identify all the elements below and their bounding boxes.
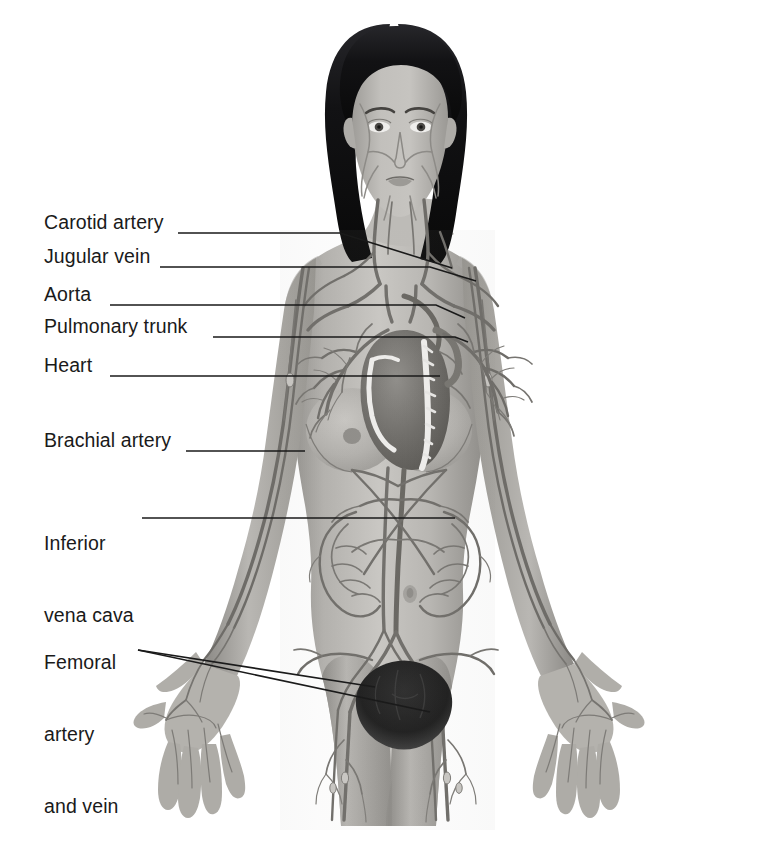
label-pulmonary-trunk: Pulmonary trunk	[44, 314, 187, 338]
label-femoral-line1: Femoral	[44, 650, 119, 674]
label-femoral-artery-and-vein: Femoral artery and vein	[44, 602, 119, 847]
label-inferior-vena-cava-line1: Inferior	[44, 531, 134, 555]
halftone-texture	[280, 230, 495, 830]
label-brachial-artery: Brachial artery	[44, 428, 171, 452]
diagram-canvas: .vsl { fill:none; stroke:#6e6c68; stroke…	[0, 0, 774, 847]
label-carotid-artery: Carotid artery	[44, 210, 164, 234]
label-aorta: Aorta	[44, 282, 91, 306]
label-femoral-line3: and vein	[44, 794, 119, 818]
label-femoral-line2: artery	[44, 722, 119, 746]
label-jugular-vein: Jugular vein	[44, 244, 150, 268]
label-heart: Heart	[44, 353, 92, 377]
